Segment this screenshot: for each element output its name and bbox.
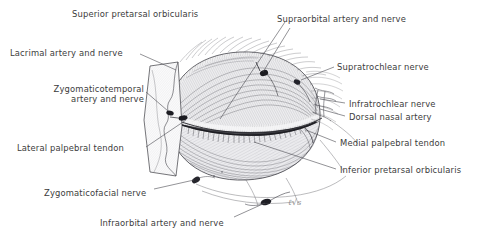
leader-zygomaticofacial-nerve [154, 180, 194, 189]
label-zygomaticofacial-nerve: Zygomaticofacial nerve [44, 188, 146, 198]
label-lacrimal-artery-and-nerve: Lacrimal artery and nerve [10, 48, 123, 58]
infraorbital-bundle [245, 192, 290, 206]
leader-supratrochlear-nerve [301, 67, 334, 80]
label-infratrochlear-nerve: Infratrochlear nerve [349, 99, 436, 109]
anatomical-figure: Superior pretarsal orbicularis Supraorbi… [0, 0, 486, 239]
label-superior-pretarsal-orbicularis: Superior pretarsal orbicularis [72, 9, 198, 19]
label-inferior-pretarsal-orbicularis: Inferior pretarsal orbicularis [340, 165, 461, 175]
artist-signature: ℓ√s [288, 198, 302, 207]
label-zygomaticotemporal-line-1: Zygomaticotemporal [22, 84, 144, 94]
label-infraorbital-artery-and-nerve: Infraorbital artery and nerve [100, 218, 224, 228]
label-zygomaticotemporal-artery-and-nerve: Zygomaticotemporal artery and nerve [22, 84, 144, 104]
label-dorsal-nasal-artery: Dorsal nasal artery [349, 112, 432, 122]
label-lateral-palpebral-tendon: Lateral palpebral tendon [17, 143, 124, 153]
label-zygomaticotemporal-line-2: artery and nerve [22, 94, 144, 104]
label-medial-palpebral-tendon: Medial palpebral tendon [340, 138, 445, 148]
label-supraorbital-artery-and-nerve: Supraorbital artery and nerve [277, 14, 406, 24]
label-supratrochlear-nerve: Supratrochlear nerve [337, 62, 429, 72]
